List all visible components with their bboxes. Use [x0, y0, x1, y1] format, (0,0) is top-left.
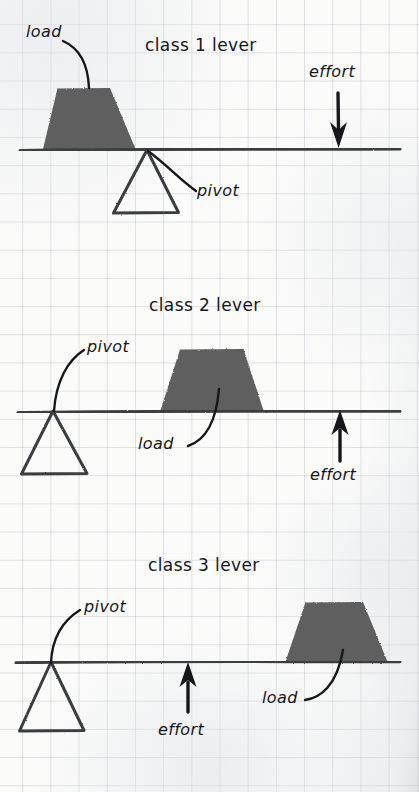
load-block-class-1 — [43, 88, 136, 149]
leader-line-pivot-class-3 — [51, 610, 80, 663]
lever-bar-class-1 — [20, 149, 400, 151]
panel-class-2-lever: class 2 lever pivot load effort — [0, 265, 419, 530]
label-load-class-1: load — [26, 22, 62, 41]
panel-class-3-lever: class 3 lever pivot load effort — [0, 530, 419, 792]
title-class-3: class 3 lever — [148, 555, 260, 575]
effort-arrow-up-class-3 — [180, 662, 197, 712]
label-pivot-class-1: pivot — [197, 181, 239, 200]
leader-line-pivot-class-2 — [54, 350, 84, 411]
load-block-class-3 — [285, 602, 388, 663]
title-class-1: class 1 lever — [145, 35, 257, 55]
leader-line-pivot-class-1 — [148, 151, 196, 191]
lever-bar-class-2 — [18, 411, 400, 412]
panel-class-1-lever: load class 1 lever effort pivot — [0, 0, 419, 265]
label-effort-class-1: effort — [309, 62, 355, 81]
label-load-class-2: load — [138, 434, 174, 453]
pivot-triangle-class-2 — [22, 411, 88, 474]
label-effort-class-3: effort — [158, 720, 204, 739]
load-block-class-2 — [160, 349, 264, 412]
label-load-class-3: load — [262, 688, 298, 707]
label-effort-class-2: effort — [310, 465, 356, 484]
lever-diagram-page: load class 1 lever effort pivot — [0, 0, 419, 792]
lever-bar-class-3 — [16, 662, 400, 663]
effort-arrow-up-class-2 — [332, 410, 349, 461]
label-pivot-class-3: pivot — [84, 597, 126, 616]
label-pivot-class-2: pivot — [87, 337, 129, 356]
pivot-triangle-class-1 — [114, 150, 179, 213]
effort-arrow-down-class-1 — [330, 93, 347, 148]
leader-line-load-class-1 — [63, 41, 89, 88]
pivot-triangle-class-3 — [20, 662, 85, 731]
title-class-2: class 2 lever — [149, 295, 261, 315]
